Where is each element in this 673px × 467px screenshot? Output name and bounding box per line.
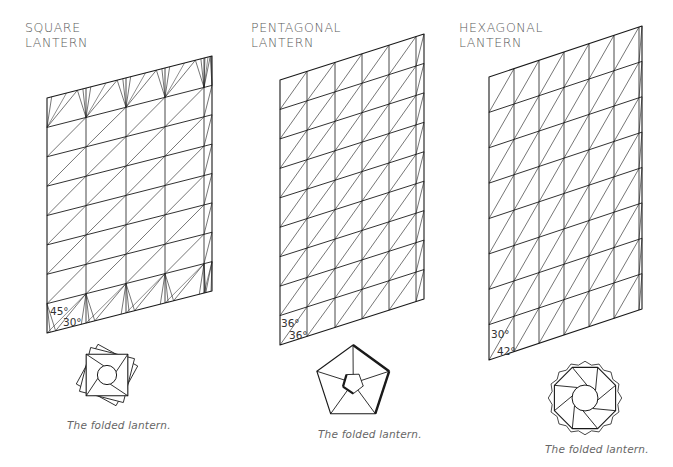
square-caption: The folded lantern.	[67, 419, 171, 431]
pentagonal-lantern-crease-pattern	[280, 34, 424, 345]
hexagonal-folded-lantern-icon	[548, 361, 621, 434]
angle-label-2: 36°	[289, 329, 308, 341]
square-folded-lantern-icon	[76, 344, 137, 405]
angle-label-2: 42°	[497, 345, 516, 357]
square-lantern-crease-pattern	[47, 56, 212, 333]
hexagonal-caption: The folded lantern.	[545, 443, 649, 455]
crease-pattern-diagrams: 45° 30° 36° 36° 30° 42°	[0, 0, 673, 467]
angle-label-2: 30°	[63, 316, 82, 328]
pentagonal-caption: The folded lantern.	[318, 428, 422, 440]
angle-label-1: 30°	[491, 328, 510, 340]
pentagonal-folded-lantern-icon	[317, 345, 389, 414]
hexagonal-lantern-crease-pattern	[489, 26, 642, 360]
angle-label-1: 36°	[281, 317, 300, 329]
